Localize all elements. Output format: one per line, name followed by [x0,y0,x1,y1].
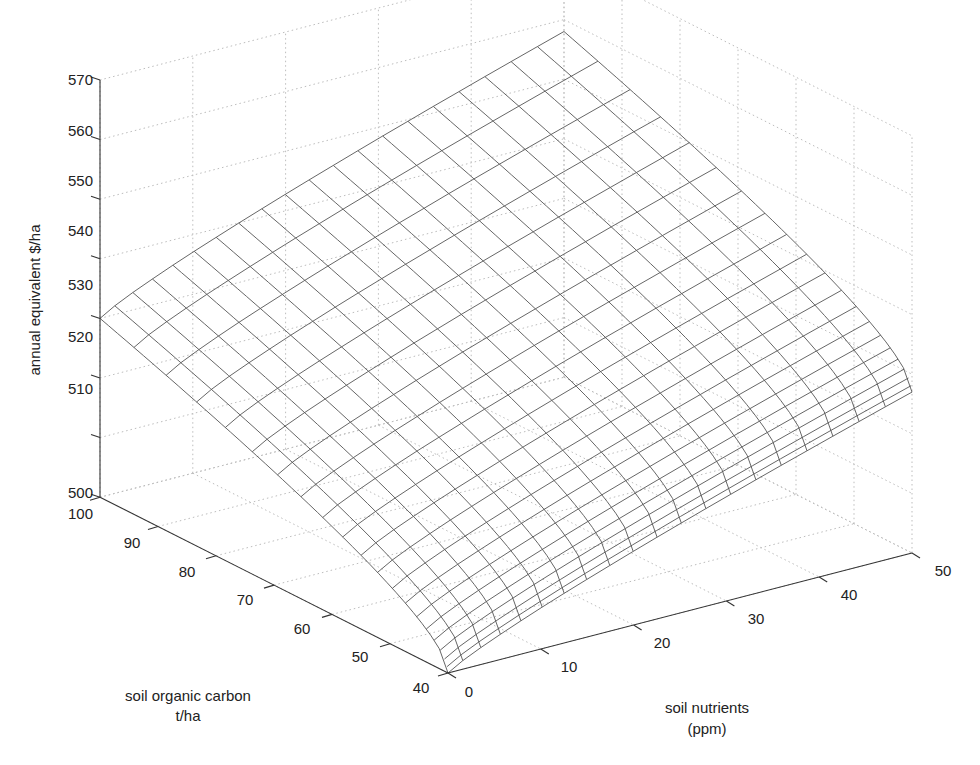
z-tick-570: 570 [68,71,93,88]
mesh-line-soc [417,335,881,617]
z-tick-550: 550 [68,172,93,189]
grid-line [564,377,912,553]
soc-tick [148,527,158,530]
mesh-line-nutrient [511,62,859,422]
mesh-line-soc [392,307,856,589]
nutrient-axis-title-line2: (ppm) [687,720,726,737]
soc-tick-100: 100 [68,505,93,522]
soc-tick [206,556,216,559]
z-tick-labels: 570 560 550 540 530 520 510 500 [68,71,93,501]
mesh-line-nutrient [537,47,885,407]
z-tick-520: 520 [68,328,93,345]
z-tick [91,256,100,259]
soc-axis-title-line2: t/ha [175,707,201,724]
mesh-line-soc [378,290,842,572]
z-tick [91,196,100,199]
mesh-line-nutrient [173,265,521,621]
grid-line [158,407,622,527]
mesh-line-nutrient [133,293,481,648]
grid-line [100,79,564,199]
soc-tick-labels: 100 90 80 70 60 50 40 [68,505,429,696]
nutrient-axis-line [448,553,912,673]
mesh-line-nutrient [309,180,657,537]
mesh-line-nutrient [100,318,448,673]
soc-tick [438,673,448,676]
z-axis-title: annual equivalent $/ha [26,224,43,376]
grid-line [332,494,796,614]
nutrient-tick-labels: 0 10 20 30 40 50 [465,562,952,700]
soc-tick-80: 80 [179,563,196,580]
grid-line [100,0,564,80]
axes [90,77,920,678]
soc-axis-title-line1: soil organic carbon [125,687,251,704]
nutrient-tick [912,553,920,558]
z-tick-540: 540 [68,222,93,239]
mesh-line-nutrient [459,92,807,451]
soc-tick-90: 90 [124,534,141,551]
soc-tick-60: 60 [294,620,311,637]
z-tick [91,315,100,318]
grid-line [274,465,738,585]
mesh-line-soc [361,273,825,555]
grid-line [100,318,564,438]
nutrient-tick [448,673,456,678]
nut-tick-0: 0 [465,683,473,700]
z-tick-530: 530 [68,276,93,293]
soc-tick-70: 70 [237,591,254,608]
mesh-line-nutrient [358,151,706,509]
mesh-line-nutrient [115,306,463,661]
z-tick-510: 510 [68,380,93,397]
nut-tick-30: 30 [748,610,765,627]
z-tick [91,435,100,438]
mesh-line-nutrient [408,121,756,480]
soc-tick [322,614,332,617]
mesh-line-soc [426,348,890,629]
soc-tick [380,644,390,647]
nutrient-tick [726,601,734,606]
mesh-line-soc [278,191,742,475]
grid-line [100,258,564,378]
grid-line [471,401,819,577]
mesh-line-nutrient [383,136,731,494]
z-tick-560: 560 [68,122,93,139]
grid-line [100,139,564,259]
nut-tick-50: 50 [935,562,952,579]
mesh-line-soc [434,359,898,640]
nutrient-tick [819,577,827,582]
nutrient-tick [634,625,642,630]
mesh-line-nutrient [152,279,500,634]
mesh-line-soc [448,392,912,673]
grid-line [286,449,634,625]
soc-tick [264,585,274,588]
grid-line [564,20,912,196]
nutrient-axis-title-line1: soil nutrients [665,699,749,716]
mesh-line-nutrient [239,223,587,579]
mesh-line-soc [301,213,765,496]
grid-line [100,20,564,140]
soc-tick-50: 50 [352,648,369,665]
mesh-line-nutrient [485,77,833,437]
soc-tick-40: 40 [413,679,430,696]
surface-mesh [100,32,912,674]
nut-tick-20: 20 [654,634,671,651]
surface-plot: 570 560 550 540 530 520 510 500 100 90 8… [0,0,980,765]
mesh-line-soc [197,117,661,402]
mesh-line-soc [134,61,598,347]
mesh-line-nutrient [216,237,564,593]
z-tick [91,375,100,378]
mesh-line-nutrient [433,106,781,465]
nut-tick-40: 40 [841,586,858,603]
nut-tick-10: 10 [561,658,578,675]
z-tick-500: 500 [68,484,93,501]
mesh-line-nutrient [285,194,633,551]
nutrient-tick [541,649,549,654]
mesh-line-soc [100,32,564,319]
